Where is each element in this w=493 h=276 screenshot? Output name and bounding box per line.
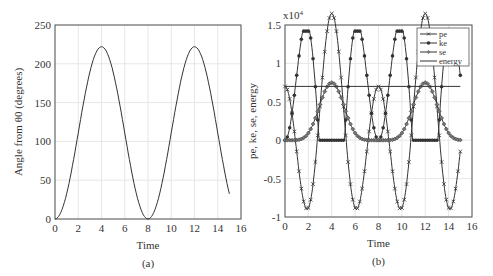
x-tick-label: 14 <box>443 220 455 232</box>
marker <box>405 122 409 126</box>
marker <box>309 36 313 40</box>
y-tick-label: 250 <box>35 19 52 31</box>
marker <box>459 74 463 78</box>
marker <box>405 57 409 61</box>
marker <box>444 127 448 131</box>
marker <box>351 36 355 40</box>
marker <box>341 102 345 106</box>
marker <box>288 126 292 130</box>
y-multiplier: x104 <box>283 9 304 21</box>
marker <box>442 122 446 126</box>
y-tick-label: 0 <box>46 213 52 225</box>
marker <box>393 37 397 41</box>
x-tick-label: 14 <box>212 222 224 234</box>
marker <box>290 112 294 116</box>
marker <box>449 207 453 211</box>
marker <box>400 29 404 33</box>
marker <box>309 127 313 131</box>
legend: pekeseenergy <box>417 28 469 66</box>
marker <box>435 102 439 106</box>
marker <box>342 138 346 142</box>
marker <box>311 122 315 126</box>
x-tick-label: 4 <box>329 220 335 232</box>
figure: 0246810121416050100150200250Time(a)Angle… <box>0 0 493 276</box>
marker <box>358 29 362 33</box>
marker <box>370 112 374 116</box>
marker <box>388 74 392 78</box>
x-tick-label: 16 <box>236 222 248 234</box>
marker <box>381 126 385 130</box>
y-tick-label: 150 <box>35 97 52 109</box>
marker <box>423 12 427 16</box>
marker <box>372 126 376 130</box>
y-tick-label: -1 <box>272 211 281 223</box>
x-tick-label: 0 <box>282 220 288 232</box>
x-tick-label: 0 <box>52 222 58 234</box>
y-axis-label: Angle from θ0 (degrees) <box>12 68 25 177</box>
x-tick-label: 10 <box>396 220 408 232</box>
marker <box>430 90 434 94</box>
y-tick-label: 100 <box>35 135 52 147</box>
x-tick-label: 4 <box>99 222 105 234</box>
x-axis-label: Time <box>137 239 160 251</box>
marker <box>337 90 341 94</box>
x-tick-label: 6 <box>122 222 128 234</box>
marker <box>311 57 315 61</box>
marker <box>356 207 360 211</box>
marker <box>297 54 301 58</box>
marker <box>307 29 311 33</box>
marker <box>295 74 299 78</box>
x-tick-label: 2 <box>76 222 82 234</box>
y-tick-label: 0.5 <box>267 96 281 108</box>
marker <box>367 93 371 97</box>
x-tick-label: 8 <box>145 222 151 234</box>
y-tick-label: 200 <box>35 58 52 70</box>
marker <box>318 102 322 106</box>
y-axis-label: pe, ke, se, energy <box>246 82 258 159</box>
plot-a: 0246810121416050100150200250Time(a)Angle… <box>12 19 247 270</box>
y-tick-label: 1 <box>276 57 282 69</box>
marker <box>363 54 367 58</box>
marker <box>402 127 406 131</box>
x-tick-label: 8 <box>376 220 382 232</box>
marker <box>323 90 327 94</box>
series-angle <box>55 47 229 219</box>
marker <box>386 93 390 97</box>
x-tick-label: 16 <box>467 220 479 232</box>
marker <box>365 74 369 78</box>
y-tick-label: 1.5 <box>267 19 281 31</box>
marker <box>293 93 297 97</box>
marker <box>300 37 304 41</box>
legend-entry-energy: energy <box>439 56 463 66</box>
marker <box>349 57 353 61</box>
y-tick-label: 0 <box>276 134 282 146</box>
x-tick-label: 12 <box>420 220 431 232</box>
marker <box>435 138 439 142</box>
x-axis-label: Time <box>367 237 390 249</box>
x-tick-label: 10 <box>166 222 178 234</box>
marker <box>391 54 395 58</box>
marker <box>384 112 388 116</box>
x-tick-label: 2 <box>306 220 312 232</box>
caption: (b) <box>372 255 385 268</box>
marker <box>330 12 334 16</box>
marker <box>402 36 406 40</box>
marker <box>416 90 420 94</box>
marker <box>351 127 355 131</box>
marker <box>412 102 416 106</box>
y-tick-label: -0.5 <box>264 173 282 185</box>
x-tick-label: 6 <box>352 220 358 232</box>
plot-b: 0246810121416-1-0.500.511.5Time(b)pe, ke… <box>246 9 478 268</box>
caption: (a) <box>142 257 155 270</box>
marker <box>348 122 352 126</box>
marker <box>360 37 364 41</box>
y-tick-label: 50 <box>40 174 52 186</box>
x-tick-label: 12 <box>189 222 200 234</box>
